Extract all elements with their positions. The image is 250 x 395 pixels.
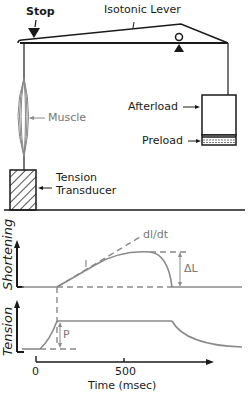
stop-icon [28, 20, 40, 38]
tension-axis [17, 306, 24, 352]
isotonic-lever [18, 24, 228, 43]
preload-p-label: P [63, 329, 70, 341]
muscle-label: Muscle [48, 112, 86, 124]
tension-transducer-label-line1: Tension [56, 172, 97, 184]
x-axis-label: Time (msec) [88, 380, 156, 392]
x-tick-500: 500 [115, 366, 136, 378]
tension-trace [22, 321, 242, 349]
delta-l-label: ΔL [184, 263, 198, 275]
shortening-trace [22, 252, 242, 287]
stop-label: Stop [26, 6, 55, 18]
afterload-label: Afterload [128, 101, 178, 113]
shortening-axis [17, 246, 24, 287]
isotonic-lever-diagram [0, 0, 250, 395]
preload-label: Preload [142, 135, 183, 147]
x-tick-0: 0 [32, 366, 39, 378]
isotonic-lever-label: Isotonic Lever [104, 4, 181, 16]
tension-transducer-icon [10, 170, 36, 210]
afterload-weight-icon [202, 95, 236, 145]
tension-axis-label: Tension [2, 307, 14, 356]
shortening-axis-label: Shortening [2, 219, 14, 290]
slope-label: dl/dt [143, 229, 168, 241]
tension-transducer-label-line2: Transducer [56, 185, 116, 197]
muscle-icon [18, 78, 29, 157]
time-axis [36, 356, 208, 362]
